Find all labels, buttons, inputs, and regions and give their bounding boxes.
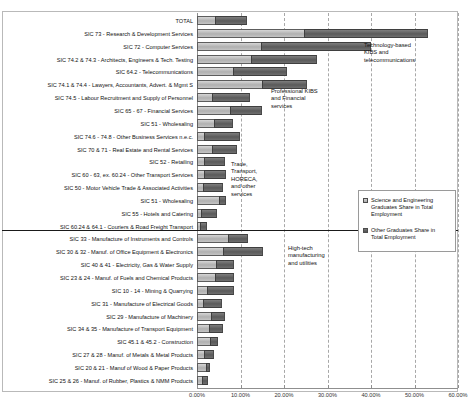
annotation-0: Technology-based KIBS and telecommunicat… xyxy=(364,42,415,64)
bar-segment-science-engineering xyxy=(197,80,262,89)
stacked-bar xyxy=(197,273,234,282)
bar-segment-science-engineering xyxy=(197,132,204,141)
x-tick xyxy=(371,385,372,388)
annotation-2: Trade, Transport, HORECA, and other serv… xyxy=(231,161,257,198)
x-tick-label: 20.00% xyxy=(275,392,294,398)
bar-segment-science-engineering xyxy=(197,196,219,205)
x-tick-label: 0.00% xyxy=(189,392,205,398)
stacked-bar xyxy=(197,363,210,372)
stacked-bar xyxy=(197,222,207,231)
x-tick xyxy=(284,385,285,388)
x-tick xyxy=(415,385,416,388)
bar-segment-other-graduates xyxy=(206,363,210,372)
bar-segment-other-graduates xyxy=(304,29,428,38)
x-axis xyxy=(197,388,458,389)
stacked-bar xyxy=(197,16,247,25)
bar-segment-science-engineering xyxy=(197,260,216,269)
legend-swatch-se xyxy=(363,198,368,203)
bar-segment-other-graduates xyxy=(201,209,216,218)
legend-swatch-other xyxy=(363,228,368,233)
bar-segment-other-graduates xyxy=(204,132,240,141)
chart-legend: Science and Engineering Graduates Share … xyxy=(358,190,456,252)
stacked-bar xyxy=(197,209,217,218)
bar-segment-science-engineering xyxy=(197,106,230,115)
stacked-bar xyxy=(197,183,223,192)
stacked-bar xyxy=(197,132,240,141)
bar-segment-science-engineering xyxy=(197,67,233,76)
bar-segment-other-graduates xyxy=(261,42,371,51)
bar-segment-science-engineering xyxy=(197,29,304,38)
annotation-3: High-tech manufacturing and utilities xyxy=(288,245,325,267)
stacked-bar xyxy=(197,247,263,256)
bar-segment-other-graduates xyxy=(207,286,234,295)
bar-segment-other-graduates xyxy=(215,16,246,25)
bar-segment-other-graduates xyxy=(209,324,223,333)
bar-segment-other-graduates xyxy=(204,170,226,179)
bar-segment-other-graduates xyxy=(211,312,225,321)
bar-segment-other-graduates xyxy=(203,183,223,192)
x-tick-label: 30.00% xyxy=(318,392,337,398)
bar-segment-science-engineering xyxy=(197,312,211,321)
stacked-bar xyxy=(197,93,250,102)
x-tick xyxy=(197,385,198,388)
stacked-bar xyxy=(197,55,317,64)
bar-segment-science-engineering xyxy=(197,170,204,179)
stacked-bar xyxy=(197,170,226,179)
stacked-bar xyxy=(197,196,226,205)
bar-segment-science-engineering xyxy=(197,247,223,256)
bar-segment-science-engineering xyxy=(197,234,228,243)
annotation-1: Professional KIBS and Financial services xyxy=(271,88,318,110)
bar-segment-other-graduates xyxy=(203,299,222,308)
bar-segment-science-engineering xyxy=(197,55,251,64)
category-label: SIC 25 & 26 - Manuf. of Rubber, Plastics… xyxy=(49,374,193,388)
x-tick-label: 10.00% xyxy=(231,392,250,398)
stacked-bar xyxy=(197,234,248,243)
bar-segment-other-graduates xyxy=(204,157,226,166)
stacked-bar xyxy=(197,42,371,51)
x-tick-label: 40.00% xyxy=(362,392,381,398)
bar-segment-science-engineering xyxy=(197,324,209,333)
x-tick-label: 50.00% xyxy=(405,392,424,398)
stacked-bar xyxy=(197,157,225,166)
bar-segment-other-graduates xyxy=(216,260,234,269)
bar-segment-science-engineering xyxy=(197,145,212,154)
x-tick-label: 60.00% xyxy=(449,392,468,398)
bar-segment-other-graduates xyxy=(228,234,248,243)
legend-label: Other Graduates Share in Total Employmen… xyxy=(371,227,435,241)
legend-item[interactable]: Science and Engineering Graduates Share … xyxy=(363,197,455,219)
x-tick xyxy=(458,385,459,388)
stacked-bar xyxy=(197,312,225,321)
bar-segment-other-graduates xyxy=(202,376,209,385)
x-tick xyxy=(241,385,242,388)
bar-segment-other-graduates xyxy=(215,273,233,282)
bar-segment-science-engineering xyxy=(197,286,207,295)
bar-segment-science-engineering xyxy=(197,42,261,51)
stacked-bar xyxy=(197,350,214,359)
stacked-bar xyxy=(197,376,208,385)
stacked-bar xyxy=(197,119,233,128)
bar-segment-other-graduates xyxy=(212,93,250,102)
x-tick xyxy=(328,385,329,388)
legend-label: Science and Engineering Graduates Share … xyxy=(371,197,433,219)
stacked-bar xyxy=(197,67,287,76)
stacked-bar xyxy=(197,145,237,154)
bar-segment-other-graduates xyxy=(214,119,233,128)
bar-segment-other-graduates xyxy=(219,196,226,205)
bar-segment-science-engineering xyxy=(197,16,215,25)
bar-segment-science-engineering xyxy=(197,363,206,372)
bar-segment-other-graduates xyxy=(210,337,218,346)
bar-segment-science-engineering xyxy=(197,119,214,128)
legend-item[interactable]: Other Graduates Share in Total Employmen… xyxy=(363,227,455,241)
gridline-60 xyxy=(458,13,459,388)
stacked-bar xyxy=(197,260,234,269)
stacked-bar xyxy=(197,299,222,308)
bar-segment-other-graduates xyxy=(251,55,318,64)
bar-segment-other-graduates xyxy=(200,222,208,231)
stacked-bar xyxy=(197,337,218,346)
bar-segment-science-engineering xyxy=(197,337,210,346)
stacked-bar xyxy=(197,286,234,295)
stacked-bar xyxy=(197,324,223,333)
bar-segment-other-graduates xyxy=(233,67,287,76)
stacked-bar xyxy=(197,29,428,38)
